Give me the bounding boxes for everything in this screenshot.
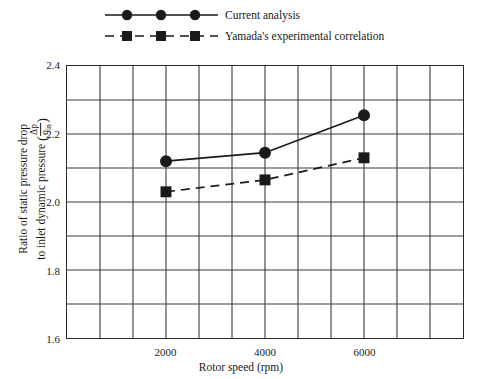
- x-tick-label: 2000: [136, 346, 196, 358]
- y-axis-title-paren-open: (: [34, 136, 50, 141]
- x-tick-label: 6000: [335, 346, 395, 358]
- y-axis-tick-labels: 1.61.82.02.22.4 200040006000: [0, 0, 482, 379]
- fraction-den-base: q: [40, 130, 50, 135]
- y-axis-title-line1: Ratio of static pressure drop: [17, 124, 29, 254]
- fraction-denominator: qin: [40, 123, 53, 136]
- y-axis-title-line2: to inlet dynamic pressure: [35, 144, 47, 260]
- y-axis-title: Ratio of static pressure drop to inlet d…: [16, 59, 54, 319]
- y-tick-label: 1.6: [26, 333, 60, 345]
- chart-figure: Current analysis Yamada's experimental c…: [0, 0, 482, 379]
- fraction-numerator: Δp: [30, 123, 40, 136]
- fraction-den-subscript: in: [44, 124, 53, 130]
- y-axis-title-fraction: Δpqin: [30, 123, 53, 136]
- x-tick-label: 4000: [235, 346, 295, 358]
- x-axis-title: Rotor speed (rpm): [0, 361, 482, 373]
